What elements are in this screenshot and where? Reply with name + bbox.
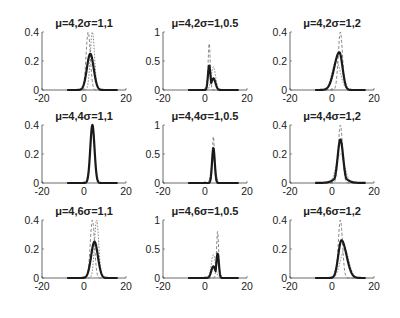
y-tick-label: 0.2 (24, 243, 39, 255)
x-tick-label: 20 (241, 92, 253, 104)
subplot-0-1: μ=4,2σ=1,0.500.51-20020 (145, 17, 253, 104)
subplot-title: μ=4,2σ=1,0.5 (172, 17, 239, 29)
subplot-2-1: μ=4,6σ=1,0.500.51-20020 (145, 205, 253, 292)
y-tick-label: 0.2 (272, 148, 287, 160)
component-curve (315, 61, 365, 90)
subplot-title: μ=4,6σ=1,0.5 (172, 205, 239, 217)
x-tick-label: 20 (120, 92, 132, 104)
estimated-curve (315, 240, 365, 278)
x-tick-label: -20 (282, 92, 297, 104)
component-curve (315, 249, 365, 278)
estimated-curve (188, 66, 238, 90)
subplot-0-0: μ=4,2σ=1,100.20.4-20020 (24, 17, 132, 104)
x-tick-label: 0 (329, 92, 335, 104)
y-tick-label: 0.5 (145, 148, 160, 160)
x-tick-label: 0 (329, 185, 335, 197)
subplot-title: μ=4,6σ=1,2 (303, 205, 361, 217)
x-tick-label: 20 (368, 92, 380, 104)
x-tick-label: 20 (241, 185, 253, 197)
x-tick-label: -20 (282, 280, 297, 292)
y-tick-label: 0.5 (145, 55, 160, 67)
y-tick-label: 0.2 (24, 148, 39, 160)
subplot-1-0: μ=4,4σ=1,100.20.4-20020 (24, 110, 132, 197)
y-tick-label: 0.4 (272, 214, 287, 226)
x-tick-label: -20 (34, 185, 49, 197)
x-tick-label: -20 (282, 185, 297, 197)
x-tick-label: -20 (34, 280, 49, 292)
y-tick-label: 0.4 (24, 214, 39, 226)
x-tick-label: -20 (155, 280, 170, 292)
x-tick-label: -20 (155, 185, 170, 197)
x-tick-label: 0 (81, 280, 87, 292)
subplot-title: μ=4,4σ=1,1 (55, 110, 113, 122)
x-tick-label: 0 (81, 185, 87, 197)
x-tick-label: 20 (241, 280, 253, 292)
component-curve (315, 220, 365, 278)
x-tick-label: 0 (81, 92, 87, 104)
y-tick-label: 0.4 (24, 119, 39, 131)
subplot-title: μ=4,4σ=1,0.5 (172, 110, 239, 122)
x-tick-label: 20 (368, 185, 380, 197)
subplot-title: μ=4,2σ=1,1 (55, 17, 113, 29)
y-tick-label: 0.2 (272, 243, 287, 255)
component-curve (188, 160, 238, 183)
estimated-curve (188, 254, 238, 278)
subplot-grid: μ=4,2σ=1,100.20.4-20020μ=4,2σ=1,0.500.51… (0, 0, 400, 318)
subplot-2-2: μ=4,6σ=1,200.20.4-20020 (272, 205, 380, 292)
component-curve (67, 125, 117, 183)
subplot-title: μ=4,6σ=1,1 (55, 205, 113, 217)
x-tick-label: 0 (202, 280, 208, 292)
subplot-0-2: μ=4,2σ=1,200.20.4-20020 (272, 17, 380, 104)
y-tick-label: 0.4 (272, 119, 287, 131)
subplot-2-0: μ=4,6σ=1,100.20.4-20020 (24, 205, 132, 292)
x-tick-label: 20 (368, 280, 380, 292)
y-tick-label: 1 (154, 119, 160, 131)
x-tick-label: 0 (329, 280, 335, 292)
estimated-curve (315, 140, 365, 183)
component-curve (315, 32, 365, 90)
estimated-curve (67, 125, 117, 183)
x-tick-label: 0 (202, 185, 208, 197)
subplot-1-1: μ=4,4σ=1,0.500.51-20020 (145, 110, 253, 197)
estimated-curve (188, 148, 238, 183)
y-tick-label: 0.4 (24, 26, 39, 38)
y-tick-label: 0.2 (24, 55, 39, 67)
component-curve (315, 154, 365, 183)
x-tick-label: 20 (120, 280, 132, 292)
y-tick-label: 0.2 (272, 55, 287, 67)
y-tick-label: 1 (154, 26, 160, 38)
y-tick-label: 0.5 (145, 243, 160, 255)
y-tick-label: 1 (154, 214, 160, 226)
subplot-title: μ=4,4σ=1,2 (303, 110, 361, 122)
subplot-1-2: μ=4,4σ=1,200.20.4-20020 (272, 110, 380, 197)
x-tick-label: -20 (155, 92, 170, 104)
x-tick-label: 0 (202, 92, 208, 104)
y-tick-label: 0.4 (272, 26, 287, 38)
x-tick-label: 20 (120, 185, 132, 197)
x-tick-label: -20 (34, 92, 49, 104)
subplot-title: μ=4,2σ=1,2 (303, 17, 361, 29)
